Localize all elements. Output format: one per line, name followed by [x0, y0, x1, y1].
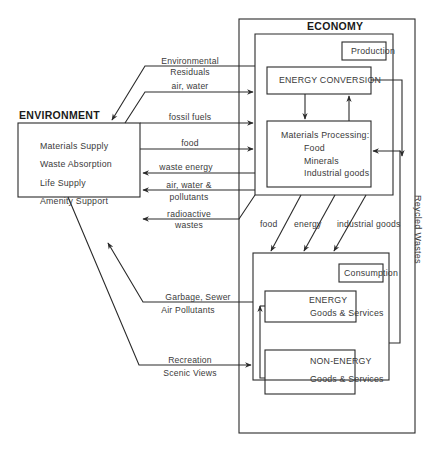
recycled-wastes-label: Reycled Wastes	[413, 195, 423, 264]
energy-conversion-label: ENERGY CONVERSION	[279, 76, 381, 85]
flow-air-water-pollutants-2: pollutants	[170, 193, 209, 202]
flow-env-residuals-2: Residuals	[170, 68, 210, 77]
flow-prod-food: food	[260, 220, 278, 229]
materials-processing-title: Materials Processing:	[281, 131, 369, 140]
materials-item-food: Food	[304, 144, 325, 153]
flow-air-water: air, water	[172, 82, 209, 91]
energy-goods-line2: Goods & Services	[310, 309, 384, 318]
flow-prod-industrial-goods: industrial goods	[337, 220, 400, 229]
flow-env-residuals-1: Environmental	[161, 57, 219, 66]
env-function-waste-absorption: Waste Absorption	[40, 160, 112, 169]
materials-item-industrial-goods: Industrial goods	[304, 169, 369, 178]
environment-title: ENVIRONMENT	[19, 110, 100, 121]
flow-waste-energy: waste energy	[159, 163, 213, 172]
env-function-life-supply: Life Supply	[40, 179, 86, 188]
nonenergy-goods-line1: NON-ENERGY	[310, 357, 372, 366]
env-function-amenity-support: Amenity Support	[40, 197, 108, 206]
materials-item-minerals: Minerals	[304, 157, 339, 166]
energy-goods-line1: ENERGY	[309, 296, 347, 305]
flow-food-in: food	[181, 139, 199, 148]
env-function-materials-supply: Materials Supply	[40, 142, 108, 151]
flow-prod-energy: energy	[294, 220, 321, 229]
flow-garbage-2: Air Pollutants	[161, 306, 214, 315]
flow-garbage-1: Garbage, Sewer	[165, 293, 230, 302]
nonenergy-goods-line2: Goods & Services	[310, 375, 384, 384]
production-label: Production	[351, 47, 395, 56]
economy-title: ECONOMY	[307, 21, 363, 32]
flow-radioactive-1: radioactive	[167, 210, 211, 219]
flow-recreation-2: Scenic Views	[163, 369, 216, 378]
flow-air-water-pollutants-1: air, water &	[166, 181, 211, 190]
flow-fossil-fuels: fossil fuels	[169, 113, 212, 122]
consumption-label: Consumption	[344, 269, 398, 278]
flow-radioactive-2: wastes	[175, 221, 203, 230]
flow-recreation-1: Recreation	[168, 356, 212, 365]
